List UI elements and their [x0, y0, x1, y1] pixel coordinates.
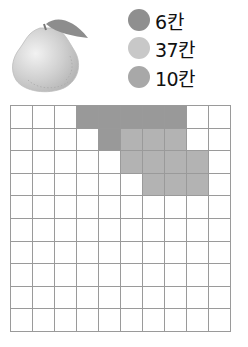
- grid-cell: [55, 219, 77, 242]
- grid-cell: [99, 106, 121, 129]
- grid-cell: [209, 196, 231, 219]
- grid-cell: [165, 309, 187, 332]
- grid-10x10: [10, 105, 231, 332]
- grid-cell: [143, 264, 165, 287]
- grid-cell: [77, 151, 99, 174]
- grid-cell: [187, 196, 209, 219]
- grid-cell: [143, 174, 165, 197]
- grid-cell: [33, 287, 55, 310]
- grid-cell: [11, 242, 33, 265]
- grid-cell: [209, 151, 231, 174]
- legend-item: 10칸: [128, 65, 195, 89]
- grid-cell: [209, 309, 231, 332]
- grid-cell: [33, 309, 55, 332]
- grid-cell: [77, 309, 99, 332]
- grid-cell: [121, 264, 143, 287]
- grid-cell: [11, 174, 33, 197]
- grid-cell: [143, 287, 165, 310]
- grid-cell: [121, 151, 143, 174]
- grid-cell: [99, 174, 121, 197]
- grid-cell: [121, 219, 143, 242]
- legend-swatch-circle-icon: [128, 37, 150, 59]
- pear-fruit-icon: [8, 10, 88, 95]
- grid-cell: [121, 129, 143, 152]
- grid-cell: [165, 106, 187, 129]
- grid-cell: [33, 264, 55, 287]
- legend-item: 37칸: [128, 36, 195, 60]
- grid-cell: [165, 129, 187, 152]
- grid-cell: [209, 242, 231, 265]
- grid-cell: [209, 287, 231, 310]
- grid-cell: [143, 129, 165, 152]
- grid-cell: [99, 151, 121, 174]
- grid-cell: [121, 242, 143, 265]
- grid-cell: [143, 151, 165, 174]
- grid-cell: [165, 151, 187, 174]
- grid-cell: [143, 106, 165, 129]
- grid-cell: [165, 219, 187, 242]
- grid-cell: [55, 264, 77, 287]
- grid-cell: [33, 106, 55, 129]
- grid-cell: [143, 242, 165, 265]
- grid-cell: [99, 129, 121, 152]
- grid-cell: [121, 309, 143, 332]
- grid-cell: [99, 287, 121, 310]
- grid-cell: [187, 287, 209, 310]
- legend-swatch-circle-icon: [128, 66, 150, 88]
- grid-cell: [11, 219, 33, 242]
- grid-cell: [33, 196, 55, 219]
- grid-cell: [55, 309, 77, 332]
- grid-cell: [209, 129, 231, 152]
- grid-cell: [33, 219, 55, 242]
- grid-cell: [187, 242, 209, 265]
- grid-cell: [77, 264, 99, 287]
- grid-cell: [187, 129, 209, 152]
- grid-cell: [165, 287, 187, 310]
- legend-item: 6칸: [128, 8, 183, 32]
- grid-cell: [77, 287, 99, 310]
- grid-cell: [209, 174, 231, 197]
- grid-cell: [187, 309, 209, 332]
- grid-cell: [11, 129, 33, 152]
- legend-label: 37칸: [155, 35, 195, 62]
- grid-cell: [77, 242, 99, 265]
- grid-cell: [55, 287, 77, 310]
- grid-cell: [55, 196, 77, 219]
- grid-cell: [11, 309, 33, 332]
- grid-cell: [77, 106, 99, 129]
- grid-cell: [11, 287, 33, 310]
- grid-cell: [121, 106, 143, 129]
- grid-cell: [55, 129, 77, 152]
- grid-cell: [33, 151, 55, 174]
- grid-cell: [55, 242, 77, 265]
- grid-cell: [209, 219, 231, 242]
- grid-cell: [99, 242, 121, 265]
- grid-cell: [11, 106, 33, 129]
- grid-cell: [209, 106, 231, 129]
- grid-cell: [33, 174, 55, 197]
- grid-cell: [121, 196, 143, 219]
- legend-swatch-circle-icon: [128, 9, 150, 31]
- grid-cell: [187, 264, 209, 287]
- grid-cell: [165, 174, 187, 197]
- grid-cell: [187, 151, 209, 174]
- grid-cell: [11, 264, 33, 287]
- grid-cell: [77, 174, 99, 197]
- grid-cell: [99, 196, 121, 219]
- legend-label: 6칸: [155, 7, 183, 34]
- grid-cell: [77, 196, 99, 219]
- grid-cell: [55, 174, 77, 197]
- grid-cell: [11, 151, 33, 174]
- grid-cell: [77, 219, 99, 242]
- grid-cell: [165, 196, 187, 219]
- legend-label: 10칸: [155, 64, 195, 91]
- grid-cell: [11, 196, 33, 219]
- grid-cell: [77, 129, 99, 152]
- grid-cell: [121, 174, 143, 197]
- grid-cell: [143, 309, 165, 332]
- grid-cell: [209, 264, 231, 287]
- grid-cell: [165, 242, 187, 265]
- grid-cell: [99, 219, 121, 242]
- grid-cell: [143, 219, 165, 242]
- grid-cell: [33, 242, 55, 265]
